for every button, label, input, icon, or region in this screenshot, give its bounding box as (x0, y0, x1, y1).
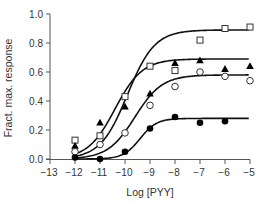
filled-circle-marker (147, 125, 154, 132)
square-marker (222, 26, 228, 32)
y-axis-label: Fract. max. response (2, 39, 14, 138)
y-tick-label: 0.0 (29, 154, 43, 165)
square-marker (247, 24, 253, 30)
y-tick-label: 0.8 (29, 38, 43, 49)
triangle-marker (246, 62, 254, 69)
filled-circle-marker (172, 114, 179, 121)
fit-curve (75, 59, 249, 154)
x-axis-label: Log [PYY] (126, 186, 173, 198)
filled-circle-marker (72, 154, 79, 161)
x-tick-label: −7 (193, 167, 205, 178)
open-circle-marker (197, 69, 204, 76)
filled-circle-marker (97, 156, 104, 163)
x-tick-label: −8 (168, 167, 180, 178)
filled-circle-marker (222, 118, 229, 125)
x-tick-label: −10 (116, 167, 133, 178)
square-marker (147, 63, 153, 69)
filled-circle-marker (197, 119, 204, 126)
square-marker (97, 133, 103, 139)
axes: 0.00.20.40.60.81.0−13−12−11−10−9−8−7−6−5 (29, 9, 255, 179)
y-tick-label: 0.2 (29, 125, 43, 136)
x-tick-label: −9 (143, 167, 155, 178)
square-marker (122, 94, 128, 100)
fit-curves (75, 30, 249, 159)
filled-circle-marker (122, 148, 129, 155)
open-circle-marker (222, 73, 229, 80)
open-circle-marker (247, 77, 254, 84)
open-circle-marker (172, 83, 179, 90)
dose-response-chart: 0.00.20.40.60.81.0−13−12−11−10−9−8−7−6−5… (0, 0, 260, 204)
data-points (71, 24, 254, 162)
y-tick-label: 0.6 (29, 67, 43, 78)
square-marker (172, 68, 178, 74)
open-circle-marker (97, 141, 104, 148)
x-tick-label: −11 (91, 167, 108, 178)
x-tick-label: −6 (218, 167, 230, 178)
x-tick-label: −5 (243, 167, 255, 178)
open-circle-marker (72, 148, 79, 155)
y-tick-label: 1.0 (29, 9, 43, 20)
x-tick-label: −12 (66, 167, 83, 178)
open-circle-marker (147, 102, 154, 109)
triangle-marker (221, 65, 229, 72)
square-marker (197, 37, 203, 43)
open-circle-marker (122, 130, 129, 137)
x-tick-label: −13 (41, 167, 58, 178)
y-tick-label: 0.4 (29, 96, 43, 107)
triangle-marker (96, 119, 104, 126)
